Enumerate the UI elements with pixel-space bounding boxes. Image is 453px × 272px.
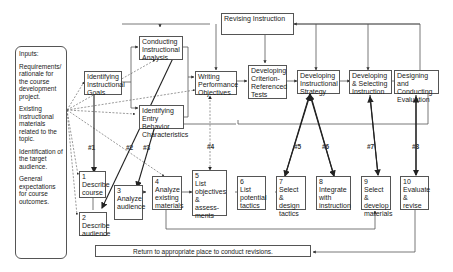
- inputs-title: Inputs:: [19, 50, 63, 58]
- return-revisions-box: Return to appropriate place to conduct r…: [95, 245, 311, 257]
- link-label-3: #3: [143, 144, 150, 151]
- link-label-6: #6: [322, 143, 329, 150]
- step-7-box: 7Select & design tactics: [276, 176, 306, 210]
- step-number: 10: [403, 178, 411, 185]
- link-label-7: #7: [367, 143, 374, 150]
- step-label: Analyze existing materials: [155, 186, 183, 209]
- step-1-box: 1Describe course: [79, 171, 106, 198]
- step-label: Select & develop materials: [364, 186, 392, 217]
- step-9-box: 9Select & develop materials: [361, 176, 391, 210]
- step-number: 7: [279, 178, 283, 185]
- link-label-1: #1: [88, 144, 95, 151]
- input-item: Existing instructional materials related…: [19, 105, 63, 143]
- step-number: 8: [319, 178, 323, 185]
- step-label: Analyze audience: [117, 195, 145, 210]
- step-number: 3: [117, 187, 121, 194]
- link-label-5: #5: [294, 143, 301, 150]
- identifying-goals-box: Identifying Instructional Goals: [84, 71, 122, 95]
- entry-behavior-box: Identifying Entry Behavior Characteristi…: [139, 105, 184, 129]
- step-number: 6: [240, 178, 244, 185]
- step-label: List objectives & assess-ments: [195, 180, 226, 219]
- step-number: 9: [364, 178, 368, 185]
- conducting-evaluation-box: Designing and Conducting Evaluation: [394, 70, 439, 94]
- step-label: Describe audience: [82, 222, 110, 237]
- link-label-8: #8: [412, 143, 419, 150]
- step-label: Select & design tactics: [279, 186, 300, 217]
- link-label-2: #2: [126, 144, 133, 151]
- step-5-box: 5List objectives & assess-ments: [192, 170, 227, 216]
- step-number: 2: [82, 214, 86, 221]
- step-number: 5: [195, 172, 199, 179]
- step-label: List potential tactics: [240, 186, 266, 209]
- connector-lines: [0, 0, 453, 272]
- step-2-box: 2Describe audience: [79, 212, 107, 236]
- step-3-box: 3Analyze audience: [114, 185, 143, 220]
- criterion-tests-box: Developing Criterion-Referenced Tests: [248, 65, 287, 99]
- writing-objectives-box: Writing Performance Objectives: [195, 71, 237, 95]
- step-label: Integrate with instruction: [319, 186, 351, 209]
- inputs-panel: Inputs: Requirements/ rationale for the …: [15, 46, 67, 259]
- step-number: 1: [82, 173, 86, 180]
- input-item: General expectations for course outcomes…: [19, 175, 63, 205]
- instructional-strategy-box: Developing Instructional Strategy: [297, 70, 340, 94]
- step-number: 4: [155, 178, 159, 185]
- step-6-box: 6List potential tactics: [237, 176, 266, 210]
- step-label: Evaluate & revise: [403, 186, 430, 209]
- step-label: Describe course: [82, 181, 110, 196]
- selecting-instruction-box: Developing & Selecting Instruction: [349, 70, 392, 94]
- link-label-4: #4: [207, 143, 214, 150]
- step-8-box: 8Integrate with instruction: [316, 176, 351, 210]
- step-4-box: 4Analyze existing materials: [152, 176, 182, 210]
- conducting-analysis-box: Conducting Instructional Analysis: [139, 36, 183, 60]
- input-item: Requirements/ rationale for the course d…: [19, 63, 63, 101]
- revising-instruction-box: Revising Instruction: [221, 13, 294, 35]
- input-item: Identification of the target audience.: [19, 148, 63, 171]
- step-10-box: 10Evaluate & revise: [400, 176, 429, 210]
